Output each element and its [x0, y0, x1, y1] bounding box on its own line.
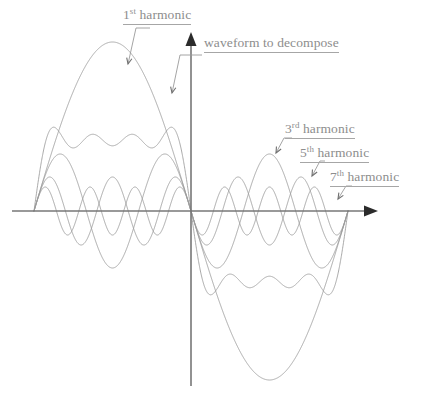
- label-seventh-harmonic: 7th harmonic: [330, 170, 399, 187]
- leader-waveform-to-decompose: [172, 55, 202, 93]
- leader-1st-harmonic: [128, 28, 150, 64]
- first-harmonic-number: 1: [123, 7, 130, 22]
- label-third-harmonic: 3rd harmonic: [285, 122, 355, 139]
- x-axis-arrowhead: [364, 206, 378, 217]
- seventh-harmonic-text: harmonic: [344, 169, 399, 184]
- fifth-harmonic-number: 5: [300, 145, 307, 160]
- leader-7th-harmonic-arrowhead: [338, 193, 343, 199]
- seventh-harmonic-number: 7: [330, 169, 337, 184]
- y-axis-arrowhead: [186, 32, 197, 46]
- third-harmonic-number: 3: [285, 121, 292, 136]
- waveform-label-text: waveform to decompose: [204, 35, 339, 50]
- fifth-harmonic-text: harmonic: [314, 145, 369, 160]
- leader-5th-harmonic: [312, 161, 325, 176]
- label-fifth-harmonic: 5th harmonic: [300, 146, 369, 163]
- waveform-plot: [0, 0, 437, 395]
- axes-group: [12, 32, 378, 386]
- third-harmonic-text: harmonic: [299, 121, 354, 136]
- label-waveform-to-decompose: waveform to decompose: [204, 36, 339, 53]
- fifth-harmonic-ordinal: th: [307, 144, 314, 154]
- harmonic-decomposition-figure: 1st harmonic waveform to decompose 3rd h…: [0, 0, 437, 395]
- seventh-harmonic-ordinal: th: [337, 168, 344, 178]
- first-harmonic-text: harmonic: [136, 7, 191, 22]
- label-first-harmonic: 1st harmonic: [123, 8, 191, 25]
